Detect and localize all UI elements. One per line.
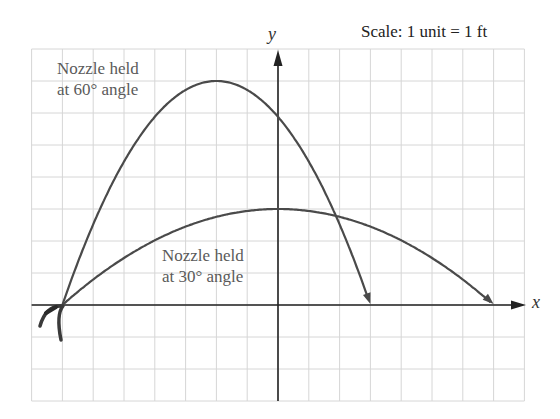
x-axis-label: x: [532, 292, 540, 313]
y-axis-arrow-icon: [274, 50, 283, 66]
nozzle-icon: [40, 306, 63, 340]
label-60-line1: Nozzle held: [57, 58, 139, 79]
label-30-line1: Nozzle held: [162, 245, 244, 266]
label-60-degree: Nozzle held at 60° angle: [57, 58, 139, 100]
x-axis-arrow-icon: [511, 301, 526, 310]
curve-30-degree: [62, 209, 490, 305]
arrowhead-icon: [483, 294, 494, 304]
scale-note: Scale: 1 unit = 1 ft: [361, 22, 487, 42]
axes: [32, 50, 526, 401]
arrowhead-icon: [363, 292, 371, 304]
label-30-degree: Nozzle held at 30° angle: [162, 245, 244, 287]
label-30-line2: at 30° angle: [162, 266, 244, 287]
y-axis-label: y: [268, 24, 276, 45]
label-60-line2: at 60° angle: [57, 79, 139, 100]
